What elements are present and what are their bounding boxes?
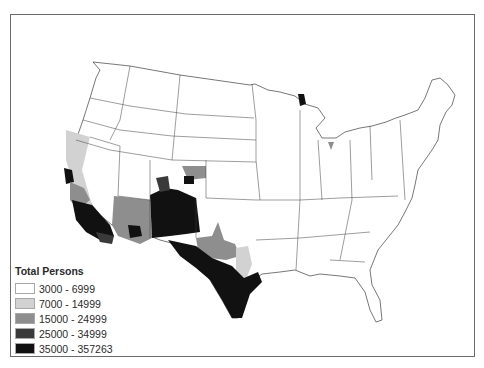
- legend-label: 35000 - 357263: [39, 343, 113, 355]
- legend-label: 3000 - 6999: [39, 283, 95, 295]
- legend-label: 7000 - 14999: [39, 298, 101, 310]
- legend-label: 25000 - 34999: [39, 328, 107, 340]
- legend-swatch: [15, 328, 35, 339]
- legend-item: 3000 - 6999: [15, 281, 113, 296]
- legend-item: 35000 - 357263: [15, 341, 113, 356]
- legend-item: 15000 - 24999: [15, 311, 113, 326]
- legend-swatch: [15, 298, 35, 309]
- region-az-dark: [128, 225, 142, 238]
- legend-item: 7000 - 14999: [15, 296, 113, 311]
- us-outline: [74, 62, 455, 322]
- legend-swatch: [15, 283, 35, 294]
- region-co-black: [184, 176, 194, 184]
- legend-title: Total Persons: [15, 265, 113, 277]
- legend-item: 25000 - 34999: [15, 326, 113, 341]
- legend-label: 15000 - 24999: [39, 313, 107, 325]
- legend-swatch: [15, 313, 35, 324]
- legend: Total Persons 3000 - 6999 7000 - 14999 1…: [15, 265, 113, 356]
- legend-swatch: [15, 343, 35, 354]
